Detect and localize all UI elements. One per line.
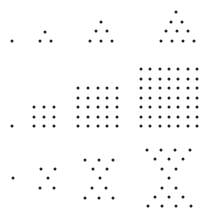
dot (182, 196, 185, 199)
dot (190, 205, 193, 208)
dot (175, 187, 178, 190)
dot (154, 158, 157, 161)
dot (40, 168, 43, 171)
dot (39, 187, 42, 190)
dot (154, 196, 157, 199)
dot (112, 159, 115, 162)
figurate-numbers-diagram (0, 0, 209, 213)
dot (112, 197, 115, 200)
dot (91, 187, 94, 190)
dot (12, 177, 15, 180)
dot (54, 168, 57, 171)
dot (168, 158, 171, 161)
dot (161, 205, 164, 208)
dot (92, 168, 95, 171)
dot (175, 168, 178, 171)
dot (105, 187, 108, 190)
dot (98, 159, 101, 162)
dot (161, 168, 164, 171)
dot (106, 168, 109, 171)
dot (99, 177, 102, 180)
dot (161, 187, 164, 190)
dot (160, 149, 163, 152)
dot (146, 149, 149, 152)
dot (168, 177, 171, 180)
dot (182, 158, 185, 161)
dot (168, 196, 171, 199)
dot (147, 205, 150, 208)
dot (174, 149, 177, 152)
dot (175, 205, 178, 208)
dot (84, 159, 87, 162)
dot (98, 197, 101, 200)
dot (47, 177, 50, 180)
hourglass-numbers-row (0, 0, 209, 213)
dot (53, 187, 56, 190)
dot (84, 197, 87, 200)
dot (189, 149, 192, 152)
